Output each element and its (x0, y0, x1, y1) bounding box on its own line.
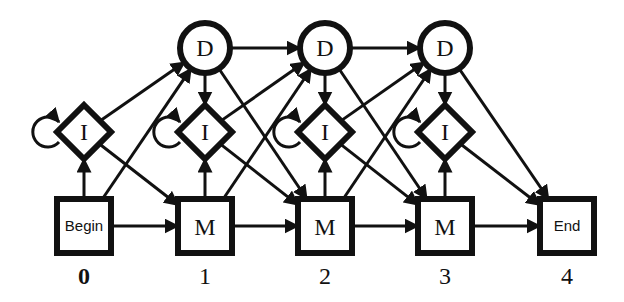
begin-state: Begin (57, 199, 111, 253)
position-label-3: 3 (439, 263, 451, 289)
match-state-3-label: M (434, 214, 455, 240)
insert-state-1: I (178, 105, 232, 159)
match-state-2-label: M (314, 214, 335, 240)
edge-i2-m3 (340, 144, 418, 205)
insert-state-3: I (418, 105, 472, 159)
states: BeginMMMEndIIIIDDD (57, 23, 594, 253)
match-state-3: M (418, 199, 472, 253)
edge-i0-m1 (99, 144, 178, 205)
profile-hmm-diagram: BeginMMMEndIIIIDDD 01234 (0, 0, 624, 302)
position-label-4: 4 (561, 263, 573, 289)
match-state-1-label: M (194, 214, 215, 240)
delete-state-1: D (180, 23, 230, 73)
match-state-2: M (298, 199, 352, 253)
insert-state-3-label: I (441, 119, 449, 145)
insert-state-1-label: I (201, 119, 209, 145)
end-state: End (540, 199, 594, 253)
match-state-1: M (178, 199, 232, 253)
delete-state-1-label: D (196, 35, 213, 61)
insert-state-0: I (57, 105, 111, 159)
end-state-label: End (554, 217, 581, 234)
edge-i3-m4 (460, 144, 540, 205)
begin-state-label: Begin (65, 217, 103, 234)
delete-state-2: D (300, 23, 350, 73)
position-label-1: 1 (199, 263, 211, 289)
delete-state-3: D (420, 23, 470, 73)
position-label-2: 2 (319, 263, 331, 289)
edge-i0-d1 (100, 62, 185, 121)
delete-state-2-label: D (316, 35, 333, 61)
insert-state-2-label: I (321, 119, 329, 145)
edge-i1-m2 (220, 144, 298, 205)
position-label-0: 0 (78, 263, 90, 289)
position-labels: 01234 (78, 263, 573, 289)
insert-state-2: I (298, 105, 352, 159)
insert-state-0-label: I (80, 119, 88, 145)
delete-state-3-label: D (436, 35, 453, 61)
